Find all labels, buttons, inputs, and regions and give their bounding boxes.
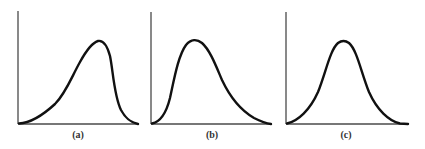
panel-a: (a) <box>18 11 139 141</box>
panel-label-c: (c) <box>340 129 351 141</box>
curve-c <box>287 41 408 124</box>
curve-b <box>152 40 271 124</box>
panel-label-a: (a) <box>72 129 84 141</box>
panel-label-b: (b) <box>206 129 218 141</box>
panel-b: (b) <box>151 12 272 141</box>
distribution-figure: (a) (b) (c) <box>0 0 425 149</box>
curve-a <box>19 41 138 124</box>
panel-c: (c) <box>286 12 409 141</box>
